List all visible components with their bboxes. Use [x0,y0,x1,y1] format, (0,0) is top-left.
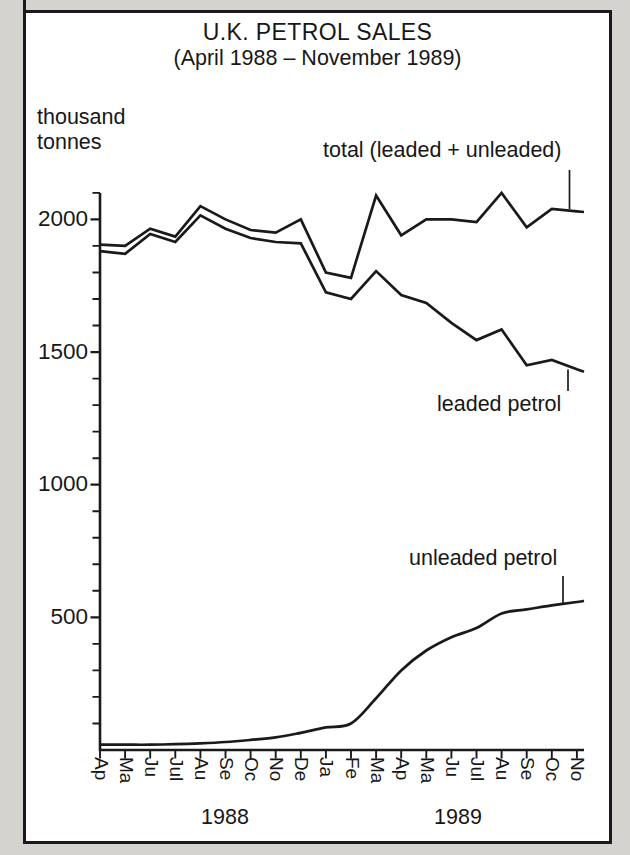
x-tick-label: Oc [542,757,562,781]
y-tick-label: 500 [24,605,88,629]
x-tick-label: No [567,757,587,781]
x-tick-label: No [266,757,286,781]
x-tick-label: Ma [417,757,437,783]
series-label-total: total (leaded + unleaded) [323,138,561,163]
series-line-leaded-petrol [100,215,584,371]
x-tick-label: Ap [91,757,111,780]
y-tick-label: 1000 [24,472,88,496]
x-tick-label: Au [191,757,211,780]
x-tick-label: Jul [467,757,487,781]
chart-subtitle: (April 1988 – November 1989) [23,46,612,71]
x-tick-label: Ja [316,757,336,777]
x-tick-label: De [291,757,311,781]
x-tick-label: Se [216,757,236,780]
scanned-book-page: U.K. PETROL SALES (April 1988 – November… [0,0,630,855]
chart-title: U.K. PETROL SALES [23,19,612,46]
y-axis-minor-ticks [93,193,101,724]
x-axis-year-label-1988: 1988 [185,805,265,830]
series-label-unleaded: unleaded petrol [409,546,557,571]
x-tick-label: Ma [116,757,136,783]
x-tick-label: Se [517,757,537,780]
x-tick-label: Jul [166,757,186,781]
y-axis-major-ticks [91,219,101,617]
y-axis-unit-label: thousand tonnes [37,105,125,155]
y-tick-label: 1500 [24,340,88,364]
x-tick-label: Ap [392,757,412,780]
y-tick-label: 2000 [24,207,88,231]
series-line-unleaded-petrol [100,601,584,745]
x-axis-year-label-1989: 1989 [418,805,498,830]
x-tick-label: Ma [367,757,387,783]
series-label-leaded: leaded petrol [437,392,561,417]
x-tick-label: Ju [442,757,462,777]
x-tick-label: Fe [342,757,362,779]
series-line-total-leaded-unleaded [100,193,584,278]
x-tick-label: Ju [141,757,161,777]
x-tick-label: Au [492,757,512,780]
x-tick-label: Oc [241,757,261,781]
